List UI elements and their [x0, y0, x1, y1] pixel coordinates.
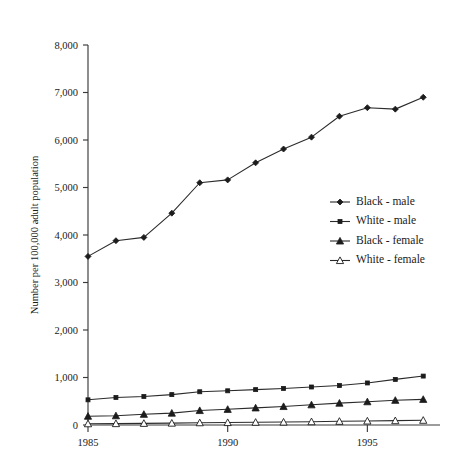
marker-filled-square — [365, 381, 369, 385]
chart-legend: Black - maleWhite - maleBlack - femaleWh… — [330, 195, 425, 266]
marker-filled-diamond — [253, 160, 259, 166]
marker-filled-square — [254, 388, 258, 392]
marker-filled-diamond — [281, 146, 287, 152]
y-axis-tick-label: 1,000 — [54, 372, 78, 383]
legend-item: White - male — [330, 214, 416, 226]
series-white-male — [86, 374, 425, 402]
x-axis-tick-label: 1990 — [217, 437, 238, 448]
legend-item-label: White - male — [356, 214, 416, 226]
y-axis-tick-label: 2,000 — [54, 325, 78, 336]
legend-item-label: White - female — [356, 253, 425, 265]
y-axis-tick-label: 8,000 — [54, 40, 78, 51]
y-axis-tick-label: 7,000 — [54, 87, 78, 98]
legend-item: Black - male — [330, 195, 415, 207]
legend-item: White - female — [330, 253, 425, 265]
legend-item: Black - female — [330, 234, 424, 246]
marker-filled-diamond — [337, 199, 343, 205]
marker-filled-square — [393, 377, 397, 381]
marker-filled-diamond — [364, 105, 370, 111]
y-axis-tick-label: 6,000 — [54, 135, 78, 146]
y-axis-tick-label: 0 — [73, 420, 78, 431]
marker-filled-square — [421, 374, 425, 378]
y-axis-tick-label: 4,000 — [54, 230, 78, 241]
y-axis-title: Number per 100,000 adult population — [29, 155, 40, 314]
legend-item-label: Black - female — [356, 234, 424, 246]
marker-filled-square — [282, 386, 286, 390]
x-axis: 198519901995 — [78, 425, 441, 448]
marker-filled-square — [337, 384, 341, 388]
x-axis-tick-label: 1985 — [78, 437, 99, 448]
marker-filled-diamond — [225, 177, 231, 183]
y-axis-label: Number per 100,000 adult population — [29, 155, 40, 314]
series-black-female — [84, 396, 426, 420]
x-axis-tick-label: 1995 — [357, 437, 378, 448]
series-line — [88, 97, 423, 256]
marker-filled-diamond — [392, 106, 398, 112]
marker-filled-square — [338, 220, 342, 224]
chart-container: 01,0002,0003,0004,0005,0006,0007,0008,00… — [0, 0, 463, 469]
line-chart: 01,0002,0003,0004,0005,0006,0007,0008,00… — [0, 0, 463, 469]
marker-filled-square — [170, 393, 174, 397]
y-axis-tick-label: 3,000 — [54, 277, 78, 288]
marker-filled-square — [309, 385, 313, 389]
legend-item-label: Black - male — [356, 195, 415, 207]
marker-filled-square — [226, 389, 230, 393]
marker-filled-square — [142, 395, 146, 399]
y-axis-tick-label: 5,000 — [54, 182, 78, 193]
marker-filled-diamond — [420, 94, 426, 100]
y-axis: 01,0002,0003,0004,0005,0006,0007,0008,00… — [54, 40, 88, 431]
marker-filled-diamond — [85, 253, 91, 259]
marker-filled-square — [114, 395, 118, 399]
marker-filled-diamond — [113, 238, 119, 244]
marker-filled-square — [198, 390, 202, 394]
marker-filled-square — [86, 398, 90, 402]
